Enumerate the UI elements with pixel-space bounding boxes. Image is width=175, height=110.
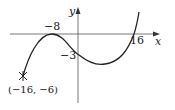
curve — [23, 12, 139, 76]
tick-label-neg3: −3 — [60, 49, 76, 62]
tick-label-neg8: −8 — [44, 20, 60, 33]
graph-svg: −8 16 x y −3 (−16, −6) — [0, 0, 175, 110]
y-axis-arrow-icon — [76, 7, 81, 14]
endpoint-label: (−16, −6) — [8, 84, 58, 95]
x-axis-label: x — [155, 35, 162, 48]
tick-label-16: 16 — [130, 34, 144, 47]
function-graph: −8 16 x y −3 (−16, −6) — [0, 0, 175, 110]
endpoint-marker-icon — [19, 71, 27, 81]
y-axis-label: y — [68, 5, 76, 18]
